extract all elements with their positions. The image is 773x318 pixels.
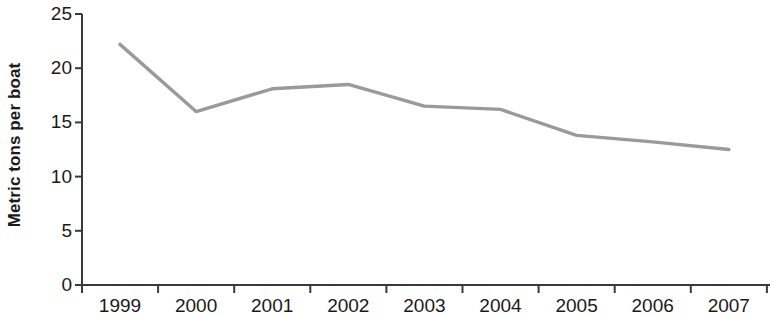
line-chart: Metric tons per boat 0510152025 19992000…: [0, 0, 773, 318]
series-line: [120, 44, 729, 149]
data-series: [120, 44, 729, 149]
plot-area: [0, 0, 773, 318]
axes: [75, 14, 770, 293]
